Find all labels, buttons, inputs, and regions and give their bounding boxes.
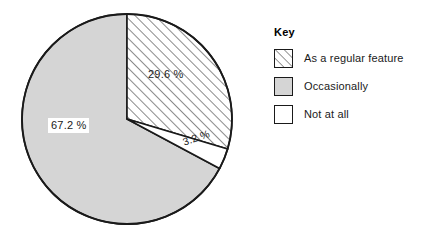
legend-title: Key [274, 26, 422, 38]
legend-swatch-gray-icon [274, 77, 293, 96]
legend-item-regular-feature[interactable]: As a regular feature [272, 44, 422, 72]
legend-label-regular-feature: As a regular feature [304, 52, 404, 64]
legend-swatch-hatched-icon [274, 49, 293, 68]
legend-label-not-at-all: Not at all [304, 108, 349, 120]
chart-legend: Key As a regular feature Occasionally No… [272, 26, 422, 128]
legend-item-not-at-all[interactable]: Not at all [272, 100, 422, 128]
pie-chart-figure: 29.6 % 67.2 % 3.2 % Key As a regular fea… [0, 0, 424, 230]
pie-label-regular-feature: 29.6 % [148, 68, 183, 80]
legend-label-occasionally: Occasionally [304, 80, 368, 92]
legend-swatch-white-icon [274, 105, 293, 124]
pie-label-occasionally: 67.2 % [48, 118, 89, 133]
legend-item-occasionally[interactable]: Occasionally [272, 72, 422, 100]
